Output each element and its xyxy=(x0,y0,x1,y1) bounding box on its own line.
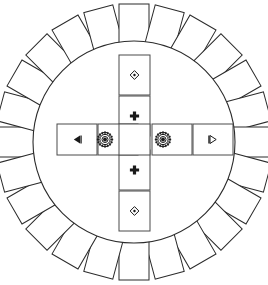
outer-card[interactable] xyxy=(232,127,268,157)
cross-card-top-outer[interactable] xyxy=(119,55,150,95)
outer-card[interactable] xyxy=(0,127,36,157)
cross-card-bottom-outer[interactable] xyxy=(119,191,150,231)
cross-card-right-outer[interactable] xyxy=(193,124,233,155)
gear-icon xyxy=(97,131,113,147)
gear-icon xyxy=(155,131,171,147)
cross-card-right-inner[interactable] xyxy=(152,124,192,155)
radial-card-diagram xyxy=(0,0,268,285)
cross-card-bottom-inner[interactable] xyxy=(119,150,150,190)
diagram-canvas xyxy=(0,0,268,285)
outer-card[interactable] xyxy=(119,4,149,44)
cross-card-left-outer[interactable] xyxy=(57,124,97,155)
outer-card[interactable] xyxy=(119,240,149,280)
center-cell[interactable] xyxy=(119,124,150,155)
